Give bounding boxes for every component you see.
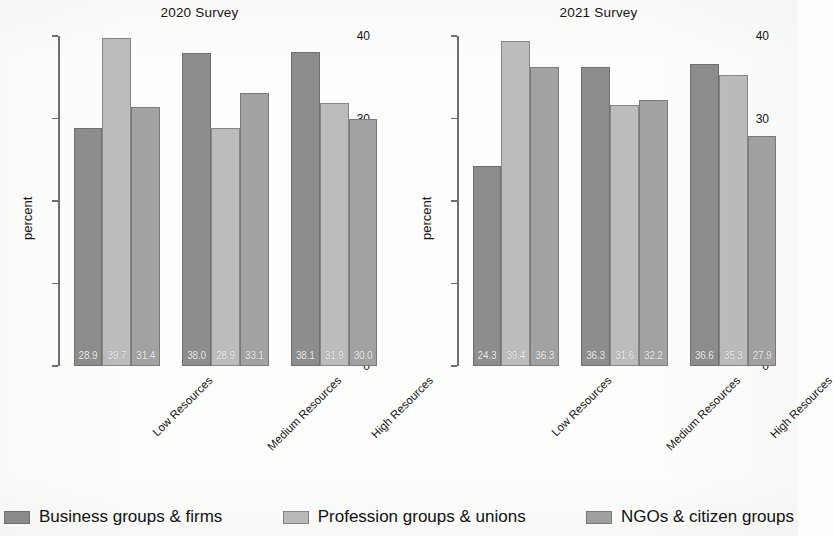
bar-group: 24.339.436.3 <box>473 36 560 366</box>
bar-value-label: 27.9 <box>749 350 776 361</box>
chart-panel-1: 2020 SurveypercentLow ResourcesMedium Re… <box>0 0 399 492</box>
x-axis-category-label: Medium Resources <box>265 374 344 453</box>
y-axis-label: percent <box>419 197 434 240</box>
bars-container: 24.339.436.336.331.632.236.635.327.9 <box>459 36 777 366</box>
y-axis-tick <box>52 35 58 37</box>
plot-area: 01020304024.339.436.336.331.632.236.635.… <box>457 36 777 366</box>
bar-value-label: 31.6 <box>611 350 638 361</box>
bar: 31.6 <box>610 105 639 366</box>
bar: 28.9 <box>74 128 103 366</box>
bar: 24.3 <box>473 166 502 366</box>
bar-value-label: 24.3 <box>474 350 501 361</box>
bar: 35.3 <box>719 75 748 366</box>
bar-value-label: 39.7 <box>103 350 130 361</box>
legend-swatch-icon <box>283 511 309 524</box>
bar-value-label: 39.4 <box>502 350 529 361</box>
bar-group: 36.331.632.2 <box>581 36 668 366</box>
bar: 39.7 <box>102 38 131 366</box>
y-axis-tick <box>52 365 58 367</box>
bar: 36.3 <box>530 67 559 366</box>
bar: 36.3 <box>581 67 610 366</box>
panel-title: 2021 Survey <box>399 5 798 20</box>
bar: 28.9 <box>211 128 240 366</box>
bar: 33.1 <box>240 93 269 366</box>
chart-panel-2: 2021 SurveypercentLow ResourcesMedium Re… <box>399 0 798 492</box>
bar: 31.4 <box>131 107 160 366</box>
legend-swatch-icon <box>4 511 30 524</box>
legend-label: Profession groups & unions <box>318 507 526 527</box>
bar-value-label: 31.4 <box>132 350 159 361</box>
bar: 27.9 <box>748 136 777 366</box>
bar-value-label: 38.0 <box>183 350 210 361</box>
bar: 38.1 <box>291 52 320 366</box>
legend-item: Business groups & firms <box>4 507 222 527</box>
bar-value-label: 36.6 <box>691 350 718 361</box>
legend-label: Business groups & firms <box>39 507 222 527</box>
bar-value-label: 33.1 <box>241 350 268 361</box>
bar-group: 38.028.933.1 <box>182 36 269 366</box>
bar-value-label: 31.9 <box>321 350 348 361</box>
bar-group: 28.939.731.4 <box>74 36 161 366</box>
x-axis-category-label: Low Resources <box>150 374 215 439</box>
bar-value-label: 28.9 <box>75 350 102 361</box>
plot-area: 01020304028.939.731.438.028.933.138.131.… <box>58 36 378 366</box>
y-axis-tick <box>52 118 58 120</box>
bar-value-label: 38.1 <box>292 350 319 361</box>
y-axis-tick <box>451 118 457 120</box>
bar: 38.0 <box>182 53 211 367</box>
bar-value-label: 36.3 <box>582 350 609 361</box>
legend-label: NGOs & citizen groups <box>621 507 794 527</box>
x-axis-category-label: High Resources <box>768 374 834 440</box>
y-axis-tick <box>52 283 58 285</box>
chart-legend: Business groups & firmsProfession groups… <box>0 498 798 536</box>
bar: 30.0 <box>349 119 378 367</box>
panel-title: 2020 Survey <box>0 5 399 20</box>
y-axis-tick <box>451 200 457 202</box>
y-axis-label: percent <box>20 197 35 240</box>
x-axis-category-label: Medium Resources <box>664 374 743 453</box>
y-axis-tick <box>451 35 457 37</box>
bar-value-label: 28.9 <box>212 350 239 361</box>
bar: 32.2 <box>639 100 668 366</box>
legend-item: Profession groups & unions <box>283 507 526 527</box>
bar-value-label: 32.2 <box>640 350 667 361</box>
y-axis-tick <box>52 200 58 202</box>
x-axis-category-label: Low Resources <box>549 374 614 439</box>
bar-value-label: 30.0 <box>350 350 377 361</box>
legend-swatch-icon <box>586 511 612 524</box>
chart-panels-container: 2020 SurveypercentLow ResourcesMedium Re… <box>0 0 798 492</box>
bar-group: 36.635.327.9 <box>690 36 777 366</box>
bar-value-label: 36.3 <box>531 350 558 361</box>
bars-container: 28.939.731.438.028.933.138.131.930.0 <box>60 36 378 366</box>
legend-item: NGOs & citizen groups <box>586 507 794 527</box>
bar: 39.4 <box>501 41 530 366</box>
bar: 36.6 <box>690 64 719 366</box>
y-axis-tick <box>451 365 457 367</box>
bar-group: 38.131.930.0 <box>291 36 378 366</box>
bar: 31.9 <box>320 103 349 366</box>
y-axis-tick <box>451 283 457 285</box>
bar-value-label: 35.3 <box>720 350 747 361</box>
